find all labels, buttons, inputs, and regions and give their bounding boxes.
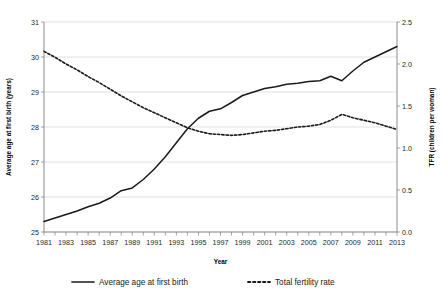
x-axis-tick-label: 1987 xyxy=(102,238,118,247)
dual-axis-line-chart: 25262728293031 0.00.51.01.52.02.5 198119… xyxy=(0,0,444,298)
legend-label-1: Average age at first birth xyxy=(99,278,188,287)
x-axis-tick-label: 1989 xyxy=(124,238,140,247)
x-axis-tick-label: 1985 xyxy=(80,238,96,247)
x-axis-tick-label: 2001 xyxy=(257,238,273,247)
gridlines xyxy=(44,22,397,232)
y-axis-right-tick-label: 0.0 xyxy=(402,228,412,237)
x-axis: 1981198319851987198919911993199519971999… xyxy=(36,232,405,247)
y-axis-left-tick-label: 28 xyxy=(31,123,39,132)
x-axis-title: Year xyxy=(214,258,228,265)
y-axis-right-tick-label: 1.0 xyxy=(402,144,412,153)
y-axis-left-tick-label: 31 xyxy=(31,18,39,27)
x-axis-tick-label: 2009 xyxy=(345,238,361,247)
x-axis-tick-label: 1991 xyxy=(146,238,162,247)
legend-label-2: Total fertility rate xyxy=(275,278,335,287)
y-axis-left-tick-label: 27 xyxy=(31,158,39,167)
y-axis-left: 25262728293031 xyxy=(31,18,44,237)
y-axis-left-tick-label: 25 xyxy=(31,228,39,237)
series-line-2 xyxy=(44,51,397,135)
x-axis-tick-label: 2003 xyxy=(279,238,295,247)
y-axis-left-title: Average age at first birth (years) xyxy=(5,78,13,176)
x-axis-tick-label: 1995 xyxy=(190,238,206,247)
y-axis-left-tick-label: 29 xyxy=(31,88,39,97)
y-axis-left-tick-label: 30 xyxy=(31,53,39,62)
x-axis-tick-label: 1997 xyxy=(213,238,229,247)
x-axis-tick-label: 1993 xyxy=(168,238,184,247)
chart-figure: 25262728293031 0.00.51.01.52.02.5 198119… xyxy=(0,0,444,298)
y-axis-right-title: TFR (children per woman) xyxy=(428,88,436,167)
y-axis-left-tick-label: 26 xyxy=(31,193,39,202)
x-axis-tick-label: 2013 xyxy=(389,238,405,247)
y-axis-right: 0.00.51.01.52.02.5 xyxy=(397,18,412,237)
x-axis-tick-label: 2005 xyxy=(301,238,317,247)
y-axis-right-tick-label: 1.5 xyxy=(402,102,412,111)
x-axis-tick-label: 2007 xyxy=(323,238,339,247)
y-axis-right-tick-label: 0.5 xyxy=(402,186,412,195)
y-axis-right-tick-label: 2.0 xyxy=(402,60,412,69)
y-axis-right-tick-label: 2.5 xyxy=(402,18,412,27)
plot-series xyxy=(44,47,397,222)
x-axis-tick-label: 1999 xyxy=(235,238,251,247)
x-axis-tick-label: 1983 xyxy=(58,238,74,247)
chart-legend: Average age at first birthTotal fertilit… xyxy=(72,278,335,287)
x-axis-tick-label: 1981 xyxy=(36,238,52,247)
series-line-1 xyxy=(44,47,397,222)
x-axis-tick-label: 2011 xyxy=(367,238,382,247)
